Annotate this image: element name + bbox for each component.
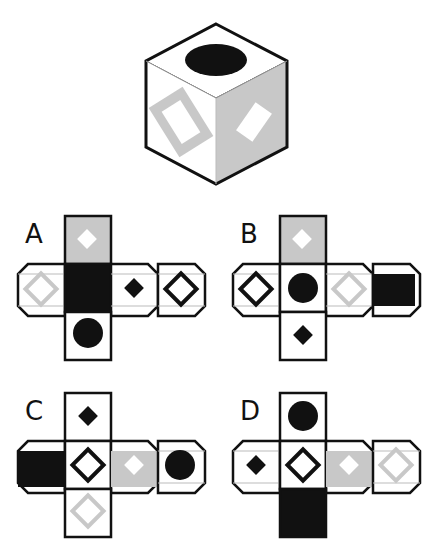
option-c-net[interactable]: C (18, 393, 205, 537)
option-b-label: B (240, 219, 258, 249)
option-d-net[interactable]: D (233, 393, 420, 537)
cube-top-circle (185, 44, 247, 76)
option-d-label: D (240, 396, 260, 426)
option-a-label: A (25, 219, 43, 249)
option-c-label: C (25, 396, 43, 426)
option-a-net[interactable]: A (18, 216, 205, 360)
reference-cube (146, 24, 287, 184)
option-b-net[interactable]: B (233, 216, 420, 360)
cube-puzzle-diagram: A B C (0, 0, 447, 559)
